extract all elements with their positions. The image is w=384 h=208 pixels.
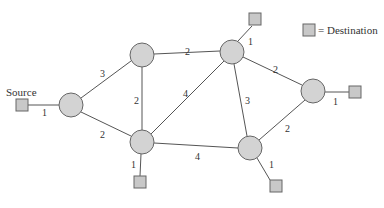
weight-b-e: 2 (134, 95, 139, 106)
router-node-a (59, 93, 83, 117)
edge-e-dest (140, 154, 141, 176)
weight-c-d: 2 (273, 64, 278, 75)
source-label: Source (6, 86, 37, 98)
destination-square-d (349, 86, 361, 98)
destination-square-f (270, 180, 282, 192)
weight-d-dest: 1 (333, 96, 338, 107)
weight-e-f: 4 (195, 151, 200, 162)
weight-f-dest: 1 (269, 159, 274, 170)
edge-a-b (81, 61, 131, 98)
weight-c-dest: 1 (248, 36, 253, 47)
network-diagram: = Destination Source 1 3 2 2 2 4 4 3 2 2… (0, 0, 384, 208)
destination-square-e (134, 176, 146, 188)
weight-f-d: 2 (285, 123, 290, 134)
router-node-c (220, 40, 244, 64)
weight-e-dest: 1 (131, 159, 136, 170)
destination-square-c (249, 13, 261, 25)
weight-source-a: 1 (42, 107, 47, 118)
router-node-f (238, 136, 262, 160)
source-square (16, 99, 28, 111)
weight-a-e: 2 (100, 129, 105, 140)
router-node-b (130, 43, 154, 67)
weight-e-c: 4 (183, 88, 188, 99)
router-node-e (130, 130, 154, 154)
legend-destination-square (303, 24, 315, 36)
edge-f-d (259, 100, 305, 140)
edge-a-e (81, 112, 131, 136)
edge-e-f (154, 143, 238, 148)
weight-c-f: 3 (245, 95, 250, 106)
weight-b-c: 2 (185, 46, 190, 57)
legend-label: = Destination (318, 24, 378, 36)
router-node-d (301, 79, 325, 103)
weight-a-b: 3 (100, 68, 105, 79)
